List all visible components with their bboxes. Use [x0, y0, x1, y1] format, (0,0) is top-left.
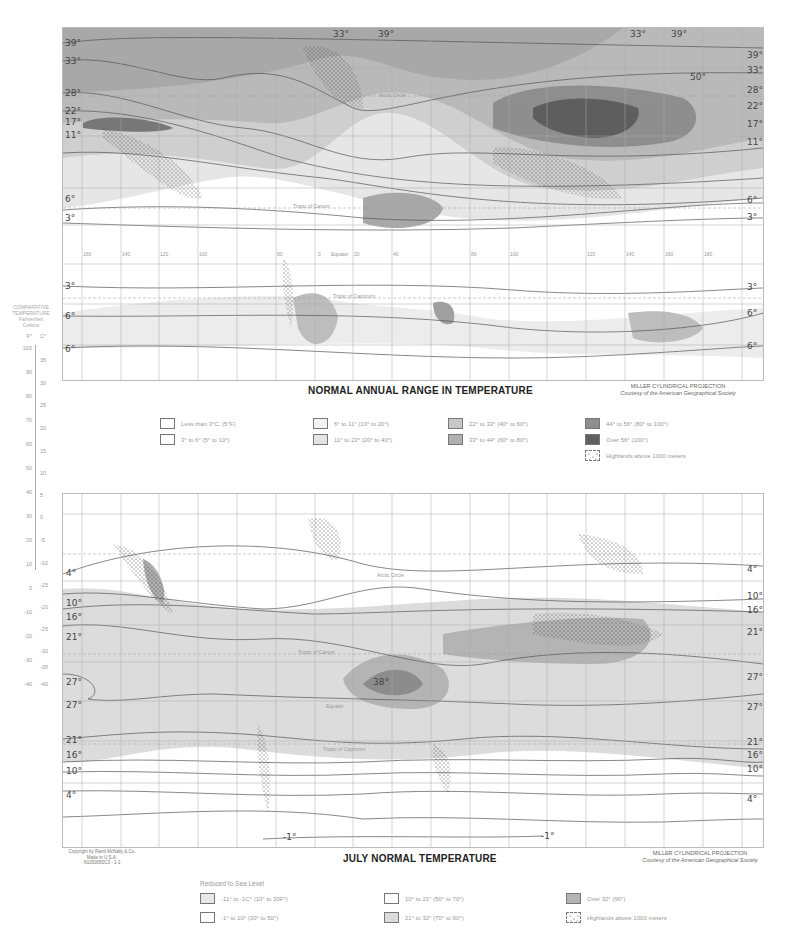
projection-label: MILLER CYLINDRICAL PROJECTION — [620, 850, 780, 857]
legend-item: 6° to 11° (10° to 20°) — [313, 418, 389, 429]
annual-range-map-graphic — [63, 28, 763, 380]
legend-label: 11° to 22° (20° to 40°) — [334, 437, 392, 443]
fahrenheit-tick: 30 — [10, 513, 32, 519]
highlands-swatch-icon — [585, 450, 600, 461]
isoline-label: 27° — [66, 677, 82, 687]
legend-item: Highlands above 1000 meters — [566, 912, 667, 923]
longitude-label: 60 — [277, 251, 283, 257]
celsius-tick: -5 — [40, 537, 45, 543]
fahrenheit-unit: F° — [10, 333, 32, 339]
isoline-label: 3° — [747, 212, 757, 222]
isoline-label: 10° — [747, 764, 763, 774]
isoline-label: 27° — [747, 672, 763, 682]
isoline-label: 6° — [65, 344, 75, 354]
legend-label: Less than 3°C. (5°F) — [181, 421, 236, 427]
legend-swatch — [160, 434, 175, 445]
fahrenheit-tick: 60 — [10, 441, 32, 447]
legend-label: 21° to 32° (70° to 90°) — [405, 915, 464, 921]
longitude-label: 100 — [510, 251, 518, 257]
longitude-label: 120 — [587, 251, 595, 257]
highlands-swatch-icon — [566, 912, 581, 923]
july-temperature-map: 4° 10° 16° 21° 27° 27° 21° 16° 10° 4° 4°… — [62, 493, 764, 848]
isoline-label: 4° — [747, 794, 757, 804]
fahrenheit-tick: -40 — [10, 681, 32, 687]
scale-heading: COMPARATIVE TEMPERATURE Fahrenheit Celsi… — [0, 304, 62, 328]
tropic-cancer-label: Tropic of Cancer — [293, 203, 330, 209]
celsius-tick: 5 — [40, 492, 43, 498]
celsius-tick: 10 — [40, 470, 46, 476]
fahrenheit-tick: 50 — [10, 465, 32, 471]
longitude-label: 100 — [199, 251, 207, 257]
legend-label: 44° to 56° (80° to 100°) — [606, 421, 668, 427]
equator-label: Equator — [326, 703, 344, 709]
longitude-label: 80 — [471, 251, 477, 257]
longitude-label: 20 — [354, 251, 360, 257]
legend-item: 21° to 32° (70° to 90°) — [384, 912, 464, 923]
annual-range-title: NORMAL ANNUAL RANGE IN TEMPERATURE — [308, 385, 533, 396]
isoline-label: 6° — [747, 308, 757, 318]
projection-label: MILLER CYLINDRICAL PROJECTION — [598, 383, 758, 390]
isoline-label: 3° — [65, 281, 75, 291]
isoline-label: 22° — [747, 101, 763, 111]
july-temperature-title: JULY NORMAL TEMPERATURE — [343, 853, 497, 864]
isoline-label: 17° — [747, 119, 763, 129]
legend-item: 10° to 21° (50° to 70°) — [384, 893, 464, 904]
legend-swatch — [585, 418, 600, 429]
isoline-label: 33° — [747, 65, 763, 75]
isoline-label: 27° — [66, 700, 82, 710]
legend-swatch — [200, 893, 215, 904]
legend-label: 3° to 6° (5° to 10°) — [181, 437, 230, 443]
isoline-label: 39° — [671, 29, 687, 39]
legend-item: 33° to 44° (60° to 80°) — [448, 434, 528, 445]
isoline-label: 39° — [747, 50, 763, 60]
longitude-label: 160 — [665, 251, 673, 257]
isoline-label: 10° — [66, 766, 82, 776]
isoline-label: 4° — [747, 564, 757, 574]
equator-label: Equator — [331, 251, 349, 257]
isoline-label: 6° — [65, 194, 75, 204]
annual-range-map: 39° 33° 28° 22° 17° 11° 6° 3° 3° 6° 6° 3… — [62, 27, 764, 381]
isoline-label: 6° — [65, 311, 75, 321]
longitude-label: 40 — [393, 251, 399, 257]
isoline-label: 3° — [747, 282, 757, 292]
isoline-label: 11° — [747, 137, 763, 147]
legend-label: 33° to 44° (60° to 80°) — [469, 437, 528, 443]
isoline-label: -1° — [283, 832, 296, 842]
isoline-label: 16° — [747, 750, 763, 760]
isoline-label: 21° — [66, 632, 82, 642]
tropic-cancer-label: Tropic of Cancer — [298, 649, 335, 655]
isoline-label: 22° — [65, 106, 81, 116]
celsius-tick: -10 — [40, 560, 48, 566]
july-temperature-map-graphic — [63, 494, 763, 847]
legend-label: Over 32° (90°) — [587, 896, 625, 902]
isoline-label: 28° — [65, 88, 81, 98]
legend-item: Over 56° (100°) — [585, 434, 648, 445]
legend-label: 10° to 21° (50° to 70°) — [405, 896, 464, 902]
fahrenheit-tick: 40 — [10, 489, 32, 495]
legend-swatch — [585, 434, 600, 445]
isoline-label: 33° — [65, 56, 81, 66]
scale-axis — [35, 345, 36, 570]
fahrenheit-tick: -30 — [10, 657, 32, 663]
legend-item: Highlands above 1000 meters — [585, 450, 686, 461]
longitude-label: 120 — [160, 251, 168, 257]
legend-swatch — [313, 434, 328, 445]
isoline-label: 4° — [66, 790, 76, 800]
top-credit: MILLER CYLINDRICAL PROJECTION Courtesy o… — [598, 383, 758, 397]
legend-swatch — [200, 912, 215, 923]
isoline-label: 21° — [66, 735, 82, 745]
courtesy-label: Courtesy of the American Geographical So… — [598, 390, 758, 397]
legend-swatch — [313, 418, 328, 429]
legend-item: -1° to 10° (30° to 50°) — [200, 912, 278, 923]
legend-label: Over 56° (100°) — [606, 437, 648, 443]
fahrenheit-tick: 70 — [10, 417, 32, 423]
legend-label: Highlands above 1000 meters — [587, 915, 667, 921]
isoline-label: 21° — [747, 737, 763, 747]
copyright-line: Copyright by Rand McNally & Co. — [62, 849, 142, 855]
celsius-tick: 15 — [40, 448, 46, 454]
isoline-label: 16° — [747, 605, 763, 615]
isoline-label: 6° — [747, 195, 757, 205]
isoline-label: 11° — [65, 130, 81, 140]
fahrenheit-tick: 20 — [10, 537, 32, 543]
legend-item: 3° to 6° (5° to 10°) — [160, 434, 230, 445]
